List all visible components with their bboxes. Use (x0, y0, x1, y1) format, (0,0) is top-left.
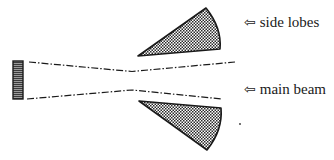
antenna-aperture (13, 61, 23, 99)
main-beam-envelope (27, 62, 235, 99)
main-beam-upper-edge (29, 62, 235, 72)
left-arrow-icon: ⇦ (244, 81, 256, 97)
left-arrow-icon: ⇦ (244, 14, 256, 30)
side-lobes-label: ⇦side lobes (244, 15, 319, 30)
lower-side-lobe (139, 101, 221, 150)
side-lobes-text: side lobes (260, 14, 320, 30)
main-beam-label: ⇦main beam (244, 82, 326, 97)
main-beam-text: main beam (260, 81, 326, 97)
upper-side-lobe (138, 8, 220, 56)
main-beam-lower-edge (27, 90, 222, 99)
stray-dot (239, 123, 241, 125)
